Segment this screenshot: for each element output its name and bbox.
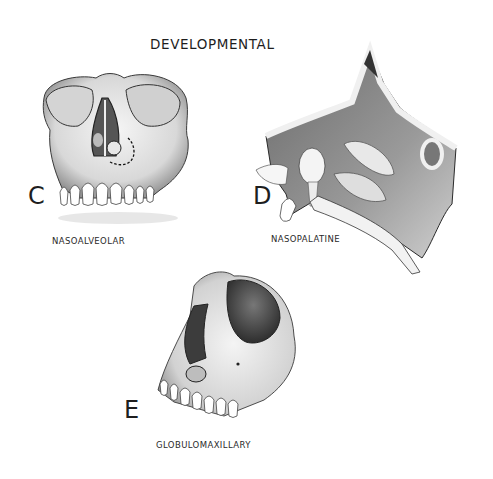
panel-d-caption: NASOPALATINE [271,234,340,244]
panel-c-caption: NASOALVEOLAR [52,236,125,246]
panel-c-letter: C [28,184,45,208]
nasoalveolar-skull-illustration [38,70,198,230]
panel-d-letter: D [253,184,271,208]
panel-e-letter: E [124,398,139,422]
panel-e-caption: GLOBULOMAXILLARY [156,440,251,450]
globulomaxillary-skull-illustration [154,266,314,426]
